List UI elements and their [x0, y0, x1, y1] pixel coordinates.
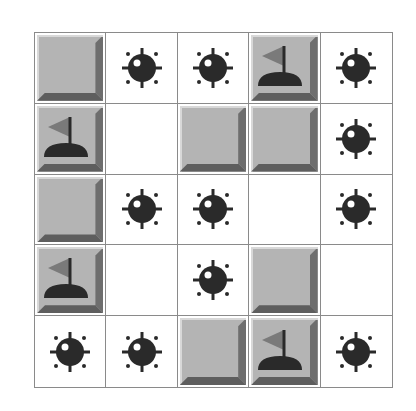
tile-highlight [37, 106, 103, 108]
board-cell-r1-c4-flag[interactable] [249, 33, 320, 104]
covered-tile[interactable] [251, 318, 317, 385]
board-cell-r1-c3-mine[interactable] [178, 33, 249, 104]
mine-icon [189, 256, 237, 304]
covered-tile[interactable] [37, 35, 103, 101]
tile-highlight [251, 106, 317, 108]
flag-icon [40, 111, 92, 163]
tile-highlight [37, 247, 39, 313]
board-cell-r5-c2-mine[interactable] [106, 316, 177, 387]
tile-highlight [180, 318, 182, 385]
minesweeper-board [34, 32, 393, 388]
mine-icon [189, 44, 237, 92]
tile-highlight [251, 247, 317, 249]
flag-icon [40, 252, 92, 304]
board-cell-r1-c5-mine[interactable] [321, 33, 392, 104]
board-cell-r3-c4-empty[interactable] [249, 175, 320, 246]
covered-tile[interactable] [37, 106, 103, 172]
board-cell-r4-c5-empty[interactable] [321, 245, 392, 316]
board-cell-r2-c3-covered[interactable] [178, 104, 249, 175]
mine-icon [332, 44, 380, 92]
tile-highlight [37, 35, 39, 101]
board-cell-r3-c2-mine[interactable] [106, 175, 177, 246]
tile-highlight [251, 35, 317, 37]
covered-tile[interactable] [251, 35, 317, 101]
tile-highlight [37, 106, 39, 172]
covered-tile[interactable] [37, 247, 103, 313]
tile-highlight [251, 318, 253, 385]
tile-highlight [251, 247, 253, 313]
board-cell-r2-c1-flag[interactable] [35, 104, 106, 175]
tile-highlight [180, 106, 182, 172]
board-cell-r3-c3-mine[interactable] [178, 175, 249, 246]
board-cell-r5-c4-flag[interactable] [249, 316, 320, 387]
mine-icon [189, 185, 237, 233]
board-cell-r4-c2-empty[interactable] [106, 245, 177, 316]
mine-icon [118, 44, 166, 92]
mine-icon [332, 328, 380, 376]
tile-highlight [37, 177, 39, 243]
tile-highlight [251, 318, 317, 320]
board-cell-r1-c2-mine[interactable] [106, 33, 177, 104]
board-cell-r3-c1-covered[interactable] [35, 175, 106, 246]
mine-icon [118, 185, 166, 233]
covered-tile[interactable] [180, 318, 246, 385]
tile-highlight [37, 35, 103, 37]
mine-icon [118, 328, 166, 376]
board-cell-r4-c4-covered[interactable] [249, 245, 320, 316]
flag-icon [254, 40, 306, 92]
mine-icon [332, 185, 380, 233]
board-cell-r5-c1-mine[interactable] [35, 316, 106, 387]
tile-highlight [251, 35, 253, 101]
tile-highlight [251, 106, 253, 172]
board-cell-r2-c5-mine[interactable] [321, 104, 392, 175]
covered-tile[interactable] [251, 247, 317, 313]
covered-tile[interactable] [180, 106, 246, 172]
mine-icon [46, 328, 94, 376]
board-cell-r5-c3-covered[interactable] [178, 316, 249, 387]
board-cell-r4-c1-flag[interactable] [35, 245, 106, 316]
covered-tile[interactable] [37, 177, 103, 243]
tile-highlight [37, 247, 103, 249]
board-cell-r3-c5-mine[interactable] [321, 175, 392, 246]
covered-tile[interactable] [251, 106, 317, 172]
board-cell-r2-c4-covered[interactable] [249, 104, 320, 175]
board-cell-r5-c5-mine[interactable] [321, 316, 392, 387]
mine-icon [332, 115, 380, 163]
flag-icon [254, 324, 306, 376]
board-cell-r2-c2-empty[interactable] [106, 104, 177, 175]
board-cell-r4-c3-mine[interactable] [178, 245, 249, 316]
tile-highlight [37, 177, 103, 179]
board-cell-r1-c1-covered[interactable] [35, 33, 106, 104]
tile-highlight [180, 318, 246, 320]
tile-highlight [180, 106, 246, 108]
